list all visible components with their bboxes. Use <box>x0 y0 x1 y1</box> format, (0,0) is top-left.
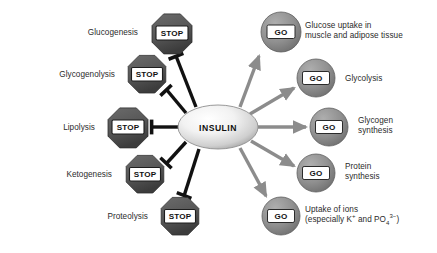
label-glycolysis: Glycolysis <box>345 74 382 84</box>
ion-suffix: ) <box>396 215 399 224</box>
stop-node-ketogenesis[interactable] <box>126 155 164 193</box>
stimulation-line-glycolysis <box>250 88 294 114</box>
label-protein-synthesis-line2: synthesis <box>345 172 380 182</box>
po4-subscript: 4 <box>386 220 389 226</box>
label-ion-uptake: Uptake of ions (especially K+ and PO43−) <box>305 205 399 225</box>
go-node-ion-uptake[interactable] <box>262 197 300 235</box>
label-ketogenesis: Ketogenesis <box>4 170 112 180</box>
go-node-protein-synthesis[interactable] <box>297 154 335 192</box>
label-glucose-uptake: Glucose uptake in muscle and adipose tis… <box>305 21 403 41</box>
label-glucogenesis: Glucogenesis <box>30 28 138 38</box>
inhibition-line-glycogenolysis <box>160 85 186 113</box>
label-ion-uptake-line2: (especially K+ and PO43−) <box>305 215 399 225</box>
label-glycogen-synthesis: Glycogen synthesis <box>358 116 393 136</box>
label-proteolysis: Proteolysis <box>40 212 148 222</box>
stop-node-proteolysis[interactable] <box>161 197 199 235</box>
label-lipolysis: Lipolysis <box>0 123 95 133</box>
ion-mid: and PO <box>356 215 386 224</box>
go-nodes <box>261 12 348 235</box>
inhibition-line-lipolysis <box>150 120 179 135</box>
stimulation-line-protein <box>251 141 294 166</box>
label-glycogen-synthesis-line2: synthesis <box>358 126 393 136</box>
inhibition-line-ketogenesis <box>160 142 186 168</box>
stop-node-lipolysis[interactable] <box>108 108 148 148</box>
go-node-glycogen-synthesis[interactable] <box>310 108 348 146</box>
go-node-glycolysis[interactable] <box>297 59 335 97</box>
label-protein-synthesis: Protein synthesis <box>345 162 380 182</box>
inhibition-line-proteolysis <box>177 149 199 198</box>
label-glucose-uptake-line2: muscle and adipose tissue <box>305 31 403 41</box>
stimulation-line-ion-uptake <box>240 148 266 196</box>
stop-node-glucogenesis[interactable] <box>152 14 192 54</box>
label-protein-synthesis-line1: Protein <box>345 162 380 172</box>
stimulation-line-glucose-uptake <box>240 56 259 107</box>
label-glucose-uptake-line1: Glucose uptake in <box>305 21 403 31</box>
stop-node-glycogenolysis[interactable] <box>128 55 166 93</box>
label-glycogen-synthesis-line1: Glycogen <box>358 116 393 126</box>
go-node-glucose-uptake[interactable] <box>261 12 301 52</box>
ion-prefix: (especially K <box>305 215 352 224</box>
label-glycogenolysis: Glycogenolysis <box>7 70 115 80</box>
insulin-node[interactable] <box>178 105 258 149</box>
